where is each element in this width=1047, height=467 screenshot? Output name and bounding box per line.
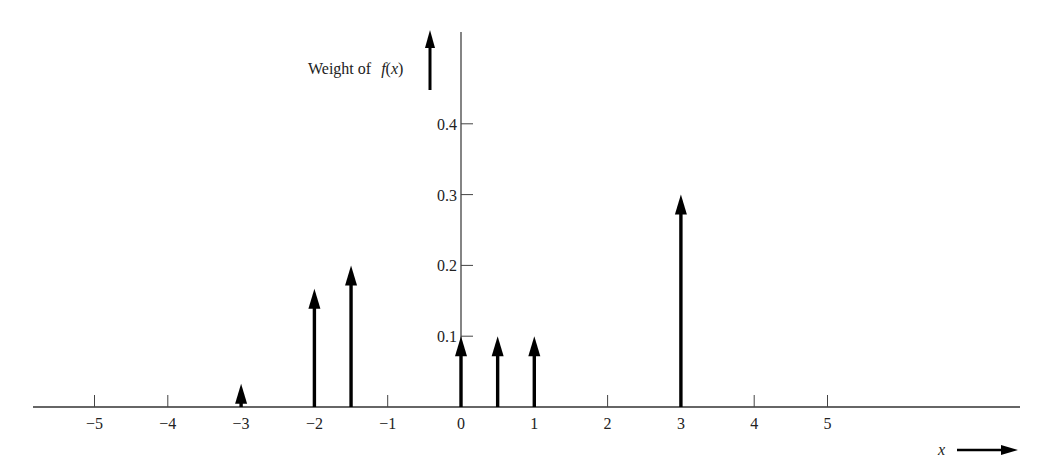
- x-tick-label: −5: [86, 415, 103, 432]
- x-tick-label: −1: [379, 415, 396, 432]
- impulse-arrow: [492, 336, 504, 407]
- impulse-arrow: [308, 289, 320, 407]
- up-arrow-icon: [425, 30, 435, 48]
- y-tick-label: 0.2: [437, 257, 457, 274]
- arrow-head-icon: [345, 265, 357, 285]
- x-tick-label: 5: [824, 415, 832, 432]
- impulse-arrow: [675, 195, 687, 407]
- x-tick-label: 3: [677, 415, 685, 432]
- arrow-head-icon: [675, 195, 687, 215]
- x-tick-label: −4: [159, 415, 176, 432]
- impulse-arrow: [345, 265, 357, 407]
- x-tick-label: 1: [530, 415, 538, 432]
- x-tick-label: −2: [306, 415, 323, 432]
- y-axis-title: Weight of f(x): [308, 30, 435, 90]
- impulse-arrow: [455, 336, 467, 407]
- x-tick-label: 0: [457, 415, 465, 432]
- arrow-head-icon: [528, 336, 540, 356]
- right-arrow-icon: [1001, 445, 1018, 455]
- x-tick-label: 2: [604, 415, 612, 432]
- x-tick-label: 4: [750, 415, 758, 432]
- y-tick-label: 0.3: [437, 187, 457, 204]
- impulse-arrow: [235, 384, 247, 407]
- arrow-head-icon: [308, 289, 320, 309]
- arrow-head-icon: [235, 384, 247, 404]
- y-axis: 0.10.20.30.4: [437, 32, 473, 407]
- x-axis-title: x: [937, 441, 1018, 458]
- impulse-weight-chart: −5−4−3−2−1012345 0.10.20.30.4 Weight of …: [0, 0, 1047, 467]
- y-tick-label: 0.4: [437, 116, 457, 133]
- impulse-arrow: [528, 336, 540, 407]
- y-axis-title-text: Weight of f(x): [308, 60, 403, 78]
- arrow-head-icon: [492, 336, 504, 356]
- x-axis: −5−4−3−2−1012345: [33, 395, 1020, 432]
- y-tick-label: 0.1: [437, 328, 457, 345]
- x-axis-title-text: x: [937, 441, 945, 458]
- x-tick-label: −3: [233, 415, 250, 432]
